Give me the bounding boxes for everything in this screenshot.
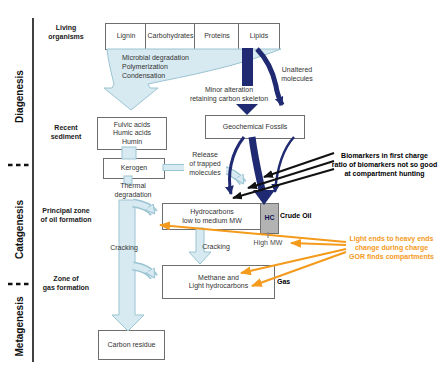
box-geochemical-fossils: Geochemical Fossils: [205, 115, 305, 139]
box-hydrocarbons: Hydrocarbons low to medium MW: [162, 203, 262, 230]
stage-diagenesis: Diagenesis: [14, 52, 25, 142]
gas-label: Gas: [277, 278, 307, 287]
unaltered-molecules-label: Unaltered molecules: [274, 66, 320, 84]
high-mw-label: High MW: [250, 239, 286, 248]
box-lignin: Lignin: [105, 23, 147, 50]
stage-metagenesis: Metagenesis: [14, 282, 25, 372]
fossils-main-arrow: [252, 137, 275, 205]
fossils-left-arrow: [230, 137, 244, 194]
microbial-degradation-label: Microbial degradation Polymerization Con…: [122, 54, 212, 80]
release-trapped-label: Release of trapped molecules: [184, 151, 226, 177]
cracking-mid-label: Cracking: [198, 243, 234, 252]
box-fulvic-humic: Fulvic acids Humic acids Humin: [97, 117, 167, 150]
box-lipids: Lipids: [238, 23, 280, 50]
stage-catagenesis: Catagenesis: [14, 185, 25, 275]
minor-alteration-label: Minor alteration retaining carbon skelet…: [188, 86, 270, 104]
box-carbohydrates: Carbohydrates: [145, 23, 196, 50]
box-carbon-residue: Carbon residue: [98, 330, 165, 360]
biomarkers-annotation: Biomarkers in first charge ratio of biom…: [326, 151, 443, 178]
biomarker-arrows: [233, 153, 334, 198]
kerogen-pipe-arrow: [112, 200, 144, 331]
row-living-organisms: Living organisms: [38, 24, 94, 42]
cracking-left-label: Cracking: [102, 244, 146, 253]
row-oil-formation: Principal zone of oil formation: [36, 207, 96, 225]
box-methane: Methane and Light hydrocarbons: [162, 265, 275, 299]
gas-branch-arrow: [133, 266, 154, 277]
box-hc: HC: [260, 203, 279, 234]
fossils-right-arrow: [275, 137, 294, 192]
thermal-degradation-label: Thermal degradation: [104, 182, 162, 200]
lipids-direct-arrow: [235, 48, 259, 115]
box-proteins: Proteins: [194, 23, 240, 50]
kerogen-maturation-diagram: Diagenesis Catagenesis Metagenesis Livin…: [0, 0, 444, 381]
light-ends-annotation: Light ends to heavy ends change during c…: [340, 234, 443, 261]
row-recent-sediment: Recent sediment: [38, 124, 94, 142]
row-gas-formation: Zone of gas formation: [36, 275, 96, 293]
arrows-overlay: [0, 0, 444, 381]
oil-branch-arrow: [133, 203, 154, 213]
box-kerogen: Kerogen: [103, 158, 165, 179]
crude-oil-label: Crude Oil: [280, 212, 320, 221]
